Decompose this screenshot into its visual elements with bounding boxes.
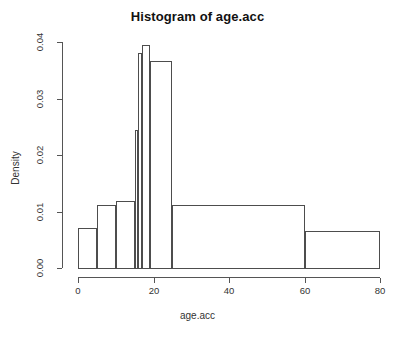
histogram-bar [116,201,135,268]
histogram-bars [0,0,395,337]
histogram-plot: Histogram of age.acc Density age.acc 0.0… [0,0,395,337]
histogram-bar [150,61,173,268]
histogram-bar [172,205,304,268]
histogram-bar [305,231,381,268]
histogram-bar [78,228,97,268]
histogram-bar [142,45,150,268]
histogram-bar [97,205,116,268]
bars-baseline [78,268,380,269]
